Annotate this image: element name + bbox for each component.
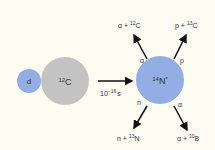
emit-label-3: α bbox=[178, 101, 182, 108]
reaction-diagram: d 12C 10−16s 14N* α p n α α + 12C p + 13… bbox=[0, 0, 215, 150]
decay-arrow-alpha-12c bbox=[134, 35, 147, 59]
decay-arrow-alpha-10b bbox=[174, 106, 187, 130]
emit-label-1: p bbox=[180, 57, 184, 65]
product-label-1: p + 13C bbox=[175, 20, 198, 30]
time-label: 10−16s bbox=[100, 88, 121, 97]
decay-arrow-p-13c bbox=[174, 35, 186, 59]
emit-label-2: n bbox=[137, 99, 141, 106]
product-label-0: α + 12C bbox=[118, 20, 141, 29]
product-label-2: n + 13N bbox=[117, 133, 140, 142]
decay-arrow-n-13n bbox=[134, 106, 147, 128]
deuteron-label: d bbox=[27, 77, 31, 86]
product-label-3: α + 10B bbox=[177, 133, 200, 142]
emit-label-0: α bbox=[140, 57, 144, 64]
